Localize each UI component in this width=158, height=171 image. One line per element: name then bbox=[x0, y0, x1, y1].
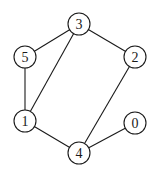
node-label: 2 bbox=[132, 50, 139, 65]
node-label: 1 bbox=[22, 114, 29, 129]
node-5: 5 bbox=[14, 46, 36, 68]
node-label: 4 bbox=[76, 146, 83, 161]
node-label: 0 bbox=[132, 116, 139, 131]
node-3: 3 bbox=[68, 13, 90, 35]
node-0: 0 bbox=[124, 112, 146, 134]
node-1: 1 bbox=[14, 110, 36, 132]
node-4: 4 bbox=[68, 142, 90, 164]
node-label: 3 bbox=[76, 17, 83, 32]
nodes-layer: 012345 bbox=[14, 13, 146, 164]
node-2: 2 bbox=[124, 46, 146, 68]
edges-layer bbox=[25, 24, 135, 153]
node-label: 5 bbox=[22, 50, 29, 65]
graph-diagram: 012345 bbox=[0, 0, 158, 171]
edge-3-1 bbox=[25, 24, 79, 121]
